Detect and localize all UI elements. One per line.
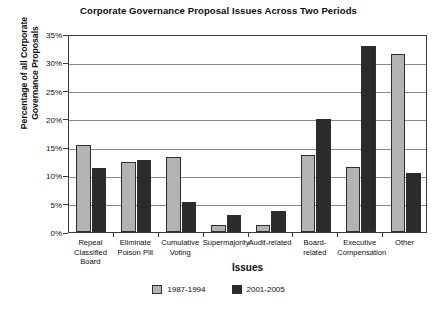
x-axis-tick-label-line: Audit-related <box>248 238 291 247</box>
legend-label: 1987-1994 <box>167 285 205 294</box>
legend-label: 2001-2005 <box>247 285 285 294</box>
x-axis-tick-mark <box>248 233 249 237</box>
x-axis-tick-label-line: Poison Pill <box>118 248 153 257</box>
bar <box>227 215 242 232</box>
x-axis-tick-label: ExecutiveCompensation <box>337 238 382 257</box>
bar <box>121 162 136 232</box>
x-axis-tick-label-line: Supermajority <box>203 238 250 247</box>
bar <box>137 160 152 232</box>
x-axis-tick-label: Supermajority <box>203 238 248 248</box>
x-axis-tick-label-line: Eliminate <box>120 238 151 247</box>
y-axis-title-line2: Governance Proposals <box>30 26 40 120</box>
x-axis-tick-label: Board-related <box>292 238 337 257</box>
y-axis-tick-label: 5% <box>34 200 62 209</box>
bar-group <box>204 36 249 232</box>
y-axis-tick-label: 0% <box>34 229 62 238</box>
x-axis-tick-label: Audit-related <box>248 238 293 248</box>
y-axis-title-line1: Percentage of all Corporate <box>19 17 29 129</box>
bar <box>316 119 331 232</box>
bar-group <box>114 36 159 232</box>
bar-group <box>249 36 294 232</box>
x-axis-tick-label-line: Compensation <box>337 248 386 257</box>
bar <box>166 157 181 232</box>
x-axis-tick-mark <box>158 233 159 237</box>
bar <box>76 145 91 232</box>
chart-legend: 1987-19942001-2005 <box>0 285 437 294</box>
x-axis-tick-label-line: Repeal <box>78 238 102 247</box>
y-axis-tick-label: 25% <box>34 87 62 96</box>
x-axis-tick-label: Other <box>382 238 427 248</box>
y-axis-tick-label: 30% <box>34 59 62 68</box>
x-axis-tick-label: EliminatePoison Pill <box>113 238 158 257</box>
bar <box>92 168 107 232</box>
x-axis-tick-mark <box>203 233 204 237</box>
x-axis-tick-mark <box>113 233 114 237</box>
x-axis-tick-label-line: Classified <box>74 248 107 257</box>
x-axis-tick-label-line: Executive <box>343 238 376 247</box>
legend-swatch-icon <box>152 285 162 294</box>
bar <box>346 167 361 232</box>
plot-area <box>68 35 427 233</box>
bar-group <box>69 36 114 232</box>
y-axis-title: Percentage of all Corporate Governance P… <box>19 0 41 163</box>
bar <box>182 202 197 232</box>
bar-group <box>338 36 383 232</box>
x-axis-tick-mark <box>292 233 293 237</box>
x-axis-tick-label: CumulativeVoting <box>158 238 203 257</box>
x-axis-tick-mark <box>382 233 383 237</box>
bar <box>391 54 406 232</box>
legend-item[interactable]: 1987-1994 <box>152 285 205 294</box>
x-axis-title: Issues <box>68 262 427 273</box>
legend-swatch-icon <box>232 285 242 294</box>
bar <box>256 225 271 232</box>
bar <box>406 173 421 232</box>
x-axis-tick-label-line: Board-related <box>303 238 326 257</box>
x-axis-tick-label-line: Cumulative <box>161 238 199 247</box>
x-axis-tick-mark <box>337 233 338 237</box>
bar <box>361 46 376 232</box>
bar <box>271 211 286 232</box>
chart-title: Corporate Governance Proposal Issues Acr… <box>0 5 437 16</box>
x-axis-tick-label-line: Voting <box>170 248 191 257</box>
y-axis-tick-label: 15% <box>34 144 62 153</box>
bar <box>211 225 226 232</box>
y-axis-tick-label: 20% <box>34 115 62 124</box>
legend-item[interactable]: 2001-2005 <box>232 285 285 294</box>
bar-group <box>383 36 428 232</box>
x-axis-tick-label-line: Other <box>395 238 414 247</box>
bar <box>301 155 316 233</box>
y-axis-tick-label: 35% <box>34 31 62 40</box>
y-axis-tick-label: 10% <box>34 172 62 181</box>
bar-group <box>293 36 338 232</box>
bar-series-layer <box>69 36 426 232</box>
chart-container: Corporate Governance Proposal Issues Acr… <box>0 0 437 309</box>
bar-group <box>159 36 204 232</box>
